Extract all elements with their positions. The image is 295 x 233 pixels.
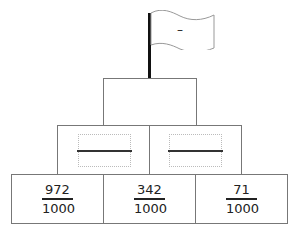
answer-fraction-bar-left xyxy=(77,150,132,152)
fraction-2: 342 1000 xyxy=(134,182,165,216)
fraction-1: 972 1000 xyxy=(42,182,73,216)
fraction-bar xyxy=(134,198,165,200)
numerator: 342 xyxy=(134,182,165,197)
flag-label: – xyxy=(177,23,183,37)
denominator: 1000 xyxy=(226,201,257,216)
denominator: 1000 xyxy=(42,201,73,216)
fraction-3: 71 1000 xyxy=(226,182,257,216)
flag-icon: – xyxy=(150,10,216,50)
fraction-bar xyxy=(42,198,73,200)
fraction-bar xyxy=(226,198,257,200)
top-box xyxy=(103,78,197,126)
denominator: 1000 xyxy=(134,201,165,216)
numerator: 972 xyxy=(42,182,73,197)
answer-fraction-bar-right xyxy=(168,150,223,152)
numerator: 71 xyxy=(226,182,257,197)
